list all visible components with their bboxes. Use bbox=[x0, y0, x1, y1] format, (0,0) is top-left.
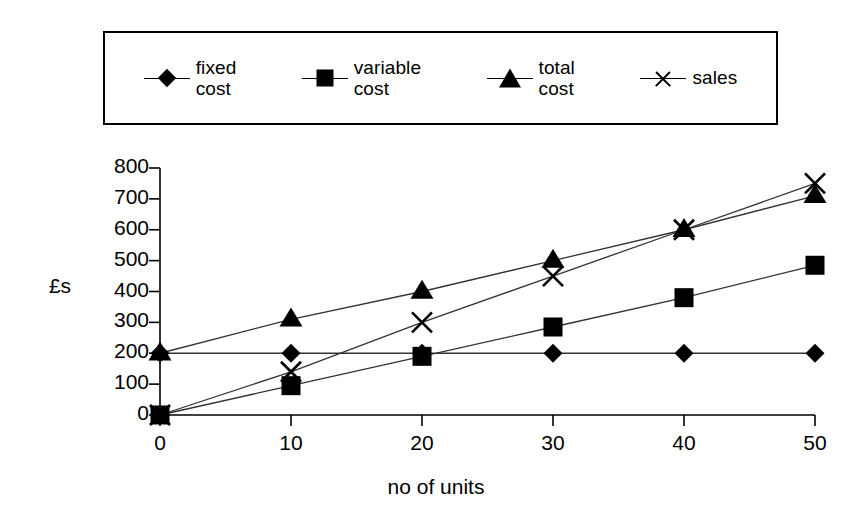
legend-label-variable-cost: variable cost bbox=[354, 57, 421, 100]
cross-marker-icon bbox=[653, 68, 673, 88]
y-axis-tick-label: 700 bbox=[75, 185, 153, 209]
legend-item-variable-cost[interactable]: variable cost bbox=[302, 57, 421, 100]
y-axis-tick-label: 100 bbox=[75, 370, 153, 394]
y-axis-tick-label: 0 bbox=[75, 401, 153, 425]
legend-item-total-cost[interactable]: total cost bbox=[487, 57, 575, 100]
x-axis-tick-label: 40 bbox=[649, 431, 719, 455]
triangle-marker-icon bbox=[499, 69, 521, 88]
x-axis-tick-label: 0 bbox=[125, 431, 195, 455]
y-axis-tick-label: 400 bbox=[75, 278, 153, 302]
legend-item-sales[interactable]: sales bbox=[640, 65, 737, 91]
chart-legend: fixed cost variable cost total cost sale… bbox=[103, 31, 778, 125]
square-marker-icon bbox=[316, 70, 333, 87]
y-axis-tick-label: 200 bbox=[75, 339, 153, 363]
legend-key-variable-cost bbox=[302, 65, 348, 91]
y-axis-tick-label: 300 bbox=[75, 308, 153, 332]
chart-plot-region: £s no of units 0100200300400500600700800… bbox=[0, 140, 858, 532]
x-axis-tick-label: 10 bbox=[256, 431, 326, 455]
legend-label-total-cost: total cost bbox=[539, 57, 575, 100]
y-axis-tick-label: 500 bbox=[75, 247, 153, 271]
legend-label-fixed-cost: fixed cost bbox=[196, 57, 237, 100]
y-axis-tick-label: 600 bbox=[75, 216, 153, 240]
legend-label-sales: sales bbox=[692, 67, 737, 88]
legend-item-fixed-cost[interactable]: fixed cost bbox=[144, 57, 237, 100]
legend-key-fixed-cost bbox=[144, 65, 190, 91]
x-axis-tick-label: 50 bbox=[780, 431, 850, 455]
diamond-marker-icon bbox=[158, 69, 176, 87]
legend-key-sales bbox=[640, 65, 686, 91]
legend-key-total-cost bbox=[487, 65, 533, 91]
x-axis-tick-label: 20 bbox=[387, 431, 457, 455]
legend-item-list: fixed cost variable cost total cost sale… bbox=[105, 33, 776, 123]
x-axis-tick-label: 30 bbox=[518, 431, 588, 455]
y-axis-tick-label: 800 bbox=[75, 154, 153, 178]
